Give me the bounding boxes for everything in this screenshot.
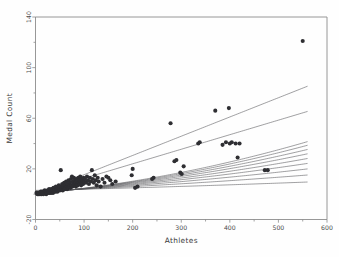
data-point (152, 176, 156, 180)
x-tick-label: 600 (321, 224, 333, 231)
x-tick-label: 300 (175, 224, 187, 231)
data-point (59, 168, 63, 172)
x-tick-label: 0 (34, 224, 38, 231)
x-tick-label: 500 (273, 224, 285, 231)
data-point (102, 181, 106, 185)
data-point (169, 121, 173, 125)
data-point (130, 173, 134, 177)
data-point (99, 185, 103, 189)
data-point (238, 142, 242, 146)
y-tick-label: 140 (25, 11, 32, 23)
y-axis-title: Medal Count (5, 93, 14, 143)
data-point (227, 106, 231, 110)
data-point (224, 140, 228, 144)
x-tick-label: 100 (78, 224, 90, 231)
data-point (230, 140, 234, 144)
data-point (135, 185, 139, 189)
data-point (90, 168, 94, 172)
data-point (234, 142, 238, 146)
x-tick-label: 200 (127, 224, 139, 231)
y-tick-label: 20 (25, 165, 32, 173)
data-point (110, 182, 114, 186)
data-point (198, 140, 202, 144)
data-point (266, 168, 270, 172)
x-axis-title: Athletes (165, 236, 198, 245)
scatter-plot: -2020601001400100200300400500600Athletes… (0, 0, 339, 257)
data-point (221, 143, 225, 147)
data-point (236, 155, 240, 159)
data-point (95, 183, 99, 187)
data-point (101, 177, 105, 181)
data-point (174, 158, 178, 162)
data-point (213, 109, 217, 113)
y-tick-label: 60 (25, 114, 32, 122)
x-tick-label: 400 (224, 224, 236, 231)
y-tick-label: -20 (25, 214, 32, 224)
data-point (114, 179, 118, 183)
data-point (182, 164, 186, 168)
data-point (180, 172, 184, 176)
data-point (96, 176, 100, 180)
y-tick-label: 100 (25, 62, 32, 74)
chart-figure: -2020601001400100200300400500600Athletes… (0, 0, 339, 257)
data-point (301, 39, 305, 43)
data-point (97, 179, 101, 183)
data-point (131, 167, 135, 171)
data-point (108, 178, 112, 182)
